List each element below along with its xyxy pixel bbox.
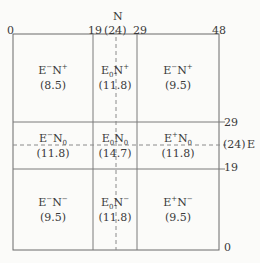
cell-4: E−N0(11.8) (13, 131, 93, 161)
cell-n: N (114, 196, 124, 209)
cell-n-sup: + (123, 63, 129, 71)
cell-3: E−N+(9.5) (137, 63, 219, 93)
cell-n-sup: − (62, 195, 68, 203)
cell-n: N (114, 64, 124, 77)
cell-value: (11.8) (13, 146, 93, 161)
cell-state-label: E0N0 (102, 132, 129, 145)
diagram-canvas: N 0 19 (24) 29 48 29 (24) E 19 0 E−N+(8.… (0, 0, 260, 263)
cell-n: N (53, 132, 63, 145)
cell-n: N (178, 132, 188, 145)
cell-state-label: E−N0 (39, 132, 67, 145)
cell-e: E (101, 64, 109, 77)
right-tick-0: 0 (224, 242, 231, 254)
cell-state-label: E−N+ (38, 64, 67, 77)
cell-value: (14.7) (93, 146, 137, 161)
cell-n-sup: − (123, 195, 129, 203)
top-tick-48: 48 (212, 25, 226, 37)
cell-value: (11.8) (93, 78, 137, 93)
top-tick-0: 0 (7, 25, 14, 37)
top-tick-19: 19 (88, 25, 102, 37)
top-tick-24: (24) (104, 25, 127, 37)
cell-n: N (52, 196, 62, 209)
right-tick-19: 19 (224, 162, 238, 174)
cell-n: N (52, 64, 62, 77)
top-tick-29: 29 (133, 25, 147, 37)
cell-1: E−N+(8.5) (13, 63, 93, 93)
cell-value: (11.8) (137, 146, 219, 161)
axis-label-e: E (247, 139, 255, 151)
cell-value: (8.5) (13, 78, 93, 93)
cell-n: N (177, 64, 187, 77)
cell-e: E (101, 196, 109, 209)
cell-7: E−N−(9.5) (13, 195, 93, 225)
cell-e: E (164, 132, 172, 145)
axis-label-n: N (113, 11, 123, 23)
cell-n-sup: − (187, 195, 193, 203)
cell-value: (11.8) (93, 210, 137, 225)
cell-5: E0N0(14.7) (93, 131, 137, 161)
cell-state-label: E+N− (163, 196, 192, 209)
right-tick-24: (24) (223, 139, 246, 151)
cell-state-label: E0N+ (101, 64, 129, 77)
cell-2: E0N+(11.8) (93, 63, 137, 93)
cell-value: (9.5) (137, 78, 219, 93)
cell-n: N (177, 196, 187, 209)
cell-n-sup: + (187, 63, 193, 71)
cell-state-label: E+N0 (164, 132, 192, 145)
cell-state-label: E−N+ (163, 64, 192, 77)
cell-value: (9.5) (13, 210, 93, 225)
cell-value: (9.5) (137, 210, 219, 225)
cell-n-sup: + (62, 63, 68, 71)
cell-e: E (102, 132, 110, 145)
cell-6: E+N0(11.8) (137, 131, 219, 161)
cell-8: E0N−(11.8) (93, 195, 137, 225)
cell-n: N (114, 132, 124, 145)
cell-state-label: E−N− (38, 196, 67, 209)
right-tick-29: 29 (224, 117, 238, 129)
cell-state-label: E0N− (101, 196, 129, 209)
cell-9: E+N−(9.5) (137, 195, 219, 225)
cell-e: E (39, 132, 47, 145)
